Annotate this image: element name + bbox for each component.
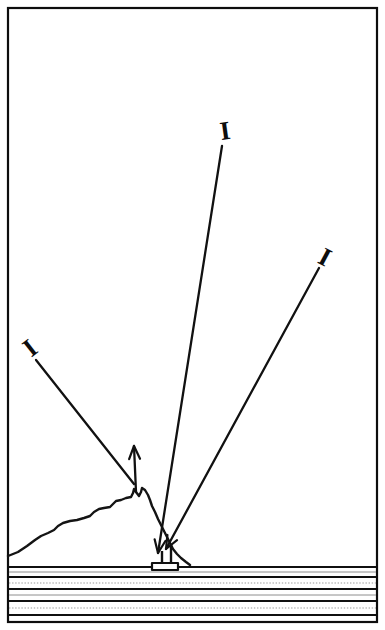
figure-root: III [0, 0, 385, 630]
station-base [152, 563, 178, 570]
ray-propagation-diagram: III [0, 0, 385, 630]
page-background [0, 0, 385, 630]
